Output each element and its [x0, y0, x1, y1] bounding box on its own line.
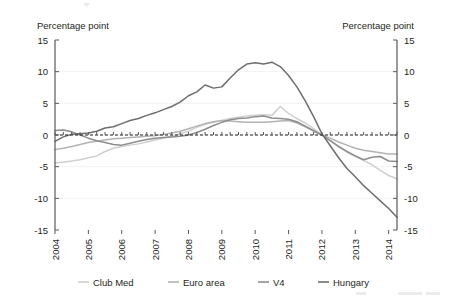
y-axis-right-tick-label: -10	[404, 193, 418, 204]
x-axis-tick-label: 2004	[50, 239, 61, 260]
y-axis-left-title: Percentage point	[37, 20, 109, 31]
y-axis-right-tick-label: -15	[404, 225, 418, 236]
x-axis-tick-label: 2007	[150, 239, 161, 260]
x-axis-tick-label: 2010	[250, 239, 261, 260]
x-axis-tick-label: 2009	[216, 239, 227, 260]
y-axis-left-tick-label: 0	[43, 130, 48, 141]
y-axis-left-tick-label: 10	[37, 66, 48, 77]
y-axis-right-tick-label: 10	[404, 66, 415, 77]
y-axis-right-tick-label: 15	[404, 35, 415, 46]
x-axis-tick-label: 2011	[283, 239, 294, 259]
y-axis-right-title: Percentage point	[342, 20, 414, 31]
y-axis-right-tick-label: 5	[404, 98, 409, 109]
x-axis-tick-label: 2008	[183, 239, 194, 260]
y-axis-left-tick-label: -15	[34, 225, 48, 236]
y-axis-left-tick-label: 15	[37, 35, 48, 46]
legend-label-hungary: Hungary	[333, 277, 369, 288]
legend-label-club-med: Club Med	[93, 277, 134, 288]
y-axis-left-tick-label: 5	[43, 98, 48, 109]
x-axis-tick-label: 2005	[83, 239, 94, 260]
legend-label-v4: V4	[273, 277, 285, 288]
x-axis-tick-label: 2013	[350, 239, 361, 260]
y-axis-right-tick-label: -5	[404, 161, 412, 172]
chart-container: 151050-5-10-15 151050-5-10-15 2004200520…	[0, 0, 452, 301]
y-axis-left-tick-label: -5	[40, 161, 48, 172]
legend-label-euro-area: Euro area	[183, 277, 225, 288]
y-axis-right-tick-label: 0	[404, 130, 409, 141]
y-axis-left-tick-label: -10	[34, 193, 48, 204]
x-axis-tick-label: 2014	[383, 239, 394, 260]
x-axis-tick-label: 2012	[316, 239, 327, 260]
x-axis-tick-label: 2006	[116, 239, 127, 260]
line-chart: 151050-5-10-15 151050-5-10-15 2004200520…	[0, 0, 452, 301]
